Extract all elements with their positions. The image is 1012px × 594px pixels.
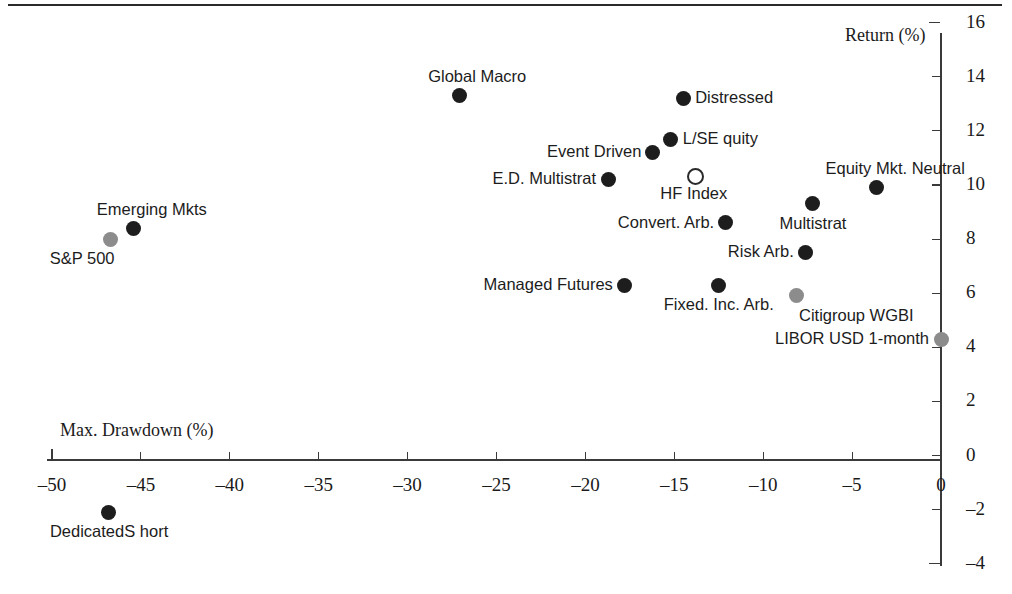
data-point-label: Fixed. Inc. Arb. [664, 296, 774, 313]
y-axis-title: Return (%) [845, 25, 925, 46]
data-point[interactable] [663, 132, 678, 147]
y-tick [932, 347, 940, 348]
y-tick [929, 22, 940, 23]
data-point-label: HF Index [660, 185, 727, 202]
y-tick [932, 76, 940, 77]
data-point[interactable] [452, 88, 467, 103]
y-tick-label: 6 [966, 281, 1006, 303]
x-tick-label: 0 [911, 474, 971, 496]
data-point-label: Emerging Mkts [97, 201, 207, 218]
y-tick-label: 16 [966, 11, 1006, 33]
y-tick [932, 293, 940, 294]
data-point-label: DedicatedS hort [50, 523, 168, 540]
y-tick [932, 130, 940, 131]
x-tick-label: –35 [289, 474, 349, 496]
y-tick [932, 239, 940, 240]
x-tick-label: –15 [644, 474, 704, 496]
x-tick [940, 449, 941, 459]
x-tick [51, 449, 52, 459]
data-point[interactable] [617, 278, 632, 293]
x-axis-line [47, 459, 941, 461]
x-tick [585, 452, 586, 459]
y-tick-label: –4 [966, 552, 1006, 574]
data-point[interactable] [126, 221, 141, 236]
y-tick-label: 8 [966, 227, 1006, 249]
data-point[interactable] [934, 332, 949, 347]
y-tick [932, 401, 940, 402]
x-tick-label: –20 [555, 474, 615, 496]
data-point-label: L/SE quity [683, 130, 758, 147]
x-tick [140, 452, 141, 459]
data-point-label: S&P 500 [50, 250, 115, 267]
data-point[interactable] [789, 288, 804, 303]
y-tick-label: 10 [966, 173, 1006, 195]
y-tick [932, 184, 940, 185]
x-tick-label: –30 [378, 474, 438, 496]
y-tick [932, 455, 940, 456]
data-point-label: Event Driven [547, 143, 641, 160]
data-point[interactable] [869, 180, 884, 195]
x-tick-label: –45 [111, 474, 171, 496]
data-point[interactable] [805, 196, 820, 211]
x-tick [852, 452, 853, 459]
data-point-label: Citigroup WGBI [799, 307, 914, 324]
page-top-rule [8, 4, 1002, 6]
data-point-label: Risk Arb. [728, 243, 794, 260]
x-tick [318, 452, 319, 459]
data-point-label: Distressed [695, 89, 773, 106]
x-tick [496, 452, 497, 459]
data-point[interactable] [687, 168, 704, 185]
data-point[interactable] [645, 145, 660, 160]
data-point[interactable] [711, 278, 726, 293]
x-tick [674, 452, 675, 459]
y-tick [932, 509, 940, 510]
data-point[interactable] [601, 172, 616, 187]
data-point-label: Equity Mkt. Neutral [825, 160, 964, 177]
data-point-label: Convert. Arb. [618, 214, 714, 231]
data-point[interactable] [798, 245, 813, 260]
data-point[interactable] [718, 215, 733, 230]
x-tick [763, 452, 764, 459]
x-tick-label: –50 [22, 474, 82, 496]
data-point[interactable] [103, 232, 118, 247]
scatter-chart: Max. Drawdown (%) Return (%) –50–45–40–3… [0, 0, 1012, 594]
y-tick [929, 563, 940, 564]
x-tick-label: –25 [467, 474, 527, 496]
data-point-label: Multistrat [779, 215, 846, 232]
data-point-label: E.D. Multistrat [493, 170, 597, 187]
y-tick-label: –2 [966, 498, 1006, 520]
y-tick-label: 12 [966, 119, 1006, 141]
data-point-label: Managed Futures [484, 276, 613, 293]
x-tick [229, 452, 230, 459]
x-axis-title: Max. Drawdown (%) [60, 420, 213, 441]
data-point[interactable] [676, 91, 691, 106]
x-tick [407, 452, 408, 459]
x-tick-label: –40 [200, 474, 260, 496]
data-point-label: Global Macro [428, 68, 526, 85]
x-tick-label: –10 [733, 474, 793, 496]
y-tick-label: 4 [966, 335, 1006, 357]
y-tick-label: 0 [966, 444, 1006, 466]
x-tick-label: –5 [822, 474, 882, 496]
data-point-label: LIBOR USD 1-month [775, 330, 929, 347]
y-tick-label: 14 [966, 65, 1006, 87]
y-tick-label: 2 [966, 389, 1006, 411]
data-point[interactable] [101, 505, 116, 520]
